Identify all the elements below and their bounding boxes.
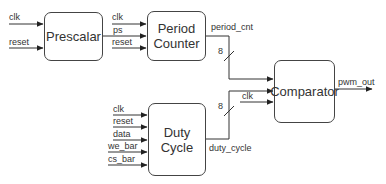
wire-duty-cycle xyxy=(206,91,273,139)
label-prescalar-reset: reset xyxy=(9,37,29,47)
prescalar-label: Prescalar xyxy=(46,29,101,44)
period-counter-label-1: Period xyxy=(158,21,196,36)
label-bus-width-duty: 8 xyxy=(218,101,223,111)
label-duty-clk: clk xyxy=(113,104,124,114)
label-prescalar-clk: clk xyxy=(9,12,20,22)
duty-cycle-block: Duty Cycle xyxy=(148,103,206,176)
label-period-ps: ps xyxy=(113,25,123,35)
duty-cycle-label-2: Cycle xyxy=(161,140,194,155)
comparator-block: Comparator xyxy=(274,60,335,123)
label-duty-cycle: duty_cycle xyxy=(209,143,252,153)
label-duty-we-bar: we_bar xyxy=(108,141,138,151)
label-duty-data: data xyxy=(113,129,131,139)
comparator-label: Comparator xyxy=(270,84,339,99)
period-counter-block: Period Counter xyxy=(147,11,206,61)
duty-cycle-label-1: Duty xyxy=(164,125,191,140)
label-pwm-out: pwm_out xyxy=(338,77,375,87)
label-duty-reset: reset xyxy=(113,116,133,126)
label-period-cnt: period_cnt xyxy=(211,22,253,32)
label-bus-width-period: 8 xyxy=(218,46,223,56)
label-duty-cs-bar: cs_bar xyxy=(108,154,135,164)
period-counter-label-2: Counter xyxy=(153,36,199,51)
prescalar-block: Prescalar xyxy=(44,12,103,61)
label-comparator-clk: clk xyxy=(242,91,253,101)
label-period-reset: reset xyxy=(112,37,132,47)
wire-period-cnt xyxy=(206,36,273,79)
label-period-clk: clk xyxy=(112,12,123,22)
